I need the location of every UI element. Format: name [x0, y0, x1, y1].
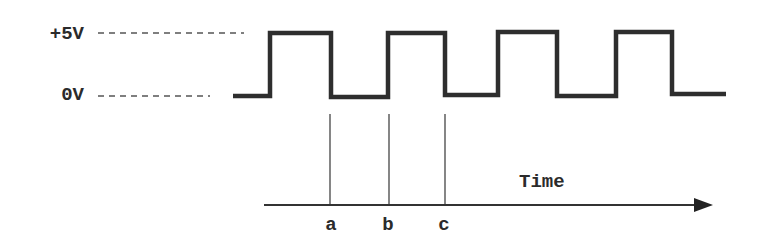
- high-level-label: +5V: [14, 25, 84, 44]
- diagram-graphics: [0, 0, 760, 251]
- time-axis-arrowhead-icon: [694, 198, 713, 212]
- square-wave-signal: [233, 32, 726, 97]
- marker-label-a: a: [321, 216, 341, 235]
- marker-label-b: b: [378, 216, 398, 235]
- low-level-label: 0V: [14, 86, 84, 105]
- marker-lines: [330, 114, 445, 205]
- time-axis-label: Time: [519, 173, 565, 192]
- marker-label-c: c: [434, 216, 454, 235]
- square-wave-diagram: +5V 0V a b c Time: [0, 0, 760, 251]
